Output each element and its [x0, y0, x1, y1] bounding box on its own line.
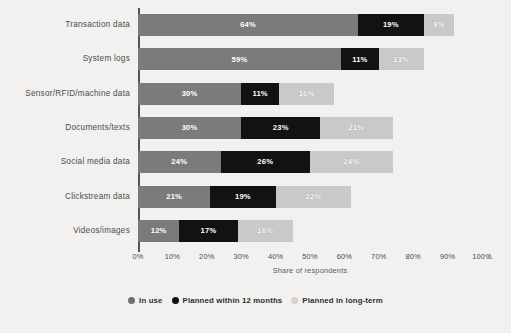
bar-value-label: 12% [151, 227, 167, 235]
bar-value-label: 24% [343, 158, 359, 166]
category-label: Sensor/RFID/machine data [25, 90, 130, 98]
x-axis-tick-label: 30% [233, 252, 248, 261]
bar-segment-planned-long-term[interactable]: 16% [238, 220, 293, 242]
circle-swatch-planned-12-months-icon [172, 297, 179, 304]
bar-segment-planned-12-months[interactable]: 17% [179, 220, 237, 242]
bar-value-label: 59% [232, 56, 248, 64]
bar-segment-in-use[interactable]: 24% [138, 151, 221, 173]
bar-row: Clickstream data21%19%22% [138, 186, 482, 208]
bar-value-label: 19% [235, 193, 251, 201]
x-axis-tick-label: 40% [268, 252, 283, 261]
bar-value-label: 16% [299, 90, 315, 98]
x-axis-tick-label: 20% [199, 252, 214, 261]
bar-row: Documents/texts30%23%21% [138, 117, 482, 139]
x-axis-tick-label: 10% [165, 252, 180, 261]
category-label: Social media data [61, 158, 130, 166]
chart-legend: In use Planned within 12 months Planned … [0, 296, 511, 305]
bar-value-label: 11% [352, 56, 367, 64]
category-label: Videos/images [73, 227, 130, 235]
circle-swatch-planned-long-term-icon [291, 297, 298, 304]
stacked-bar-chart-card: Transaction data64%19%9%System logs59%11… [0, 0, 511, 333]
legend-label-in-use: In use [139, 296, 162, 305]
x-axis-title: Share of respondents [138, 266, 482, 275]
circle-swatch-in-use-icon [128, 297, 135, 304]
bar-row: System logs59%11%13% [138, 48, 482, 70]
bar-segment-in-use[interactable]: 21% [138, 186, 210, 208]
bar-segment-in-use[interactable]: 59% [138, 48, 341, 70]
bar-row: Videos/images12%17%16% [138, 220, 482, 242]
bar-value-label: 30% [182, 90, 198, 98]
bar-segment-in-use[interactable]: 30% [138, 83, 241, 105]
bar-segment-planned-long-term[interactable]: 24% [310, 151, 393, 173]
legend-item-planned-long-term[interactable]: Planned in long-term [291, 296, 383, 305]
legend-label-planned-long-term: Planned in long-term [302, 296, 383, 305]
bar-row: Social media data24%26%24% [138, 151, 482, 173]
bar-row: Sensor/RFID/machine data30%11%16% [138, 83, 482, 105]
x-axis-tick-label: 80% [405, 252, 420, 261]
bar-segment-planned-12-months[interactable]: 19% [210, 186, 275, 208]
legend-item-planned-12-months[interactable]: Planned within 12 months [172, 296, 283, 305]
category-label: Transaction data [65, 21, 130, 29]
bar-value-label: 11% [252, 90, 267, 98]
x-axis-tick-label: 90% [440, 252, 455, 261]
bar-value-label: 30% [182, 124, 198, 132]
bar-rows-container: Transaction data64%19%9%System logs59%11… [138, 8, 482, 248]
x-axis-ticks: 0%10%20%30%40%50%60%70%80%90%100%1. [138, 252, 482, 266]
bar-value-label: 17% [201, 227, 217, 235]
bar-value-label: 9% [433, 21, 444, 29]
category-label: System logs [83, 55, 130, 63]
bar-value-label: 24% [171, 158, 187, 166]
bar-segment-in-use[interactable]: 64% [138, 14, 358, 36]
bar-value-label: 22% [306, 193, 322, 201]
bar-value-label: 21% [166, 193, 182, 201]
bar-value-label: 19% [383, 21, 399, 29]
bar-segment-in-use[interactable]: 12% [138, 220, 179, 242]
legend-item-in-use[interactable]: In use [128, 296, 162, 305]
bar-segment-in-use[interactable]: 30% [138, 117, 241, 139]
bar-value-label: 16% [257, 227, 273, 235]
bar-row: Transaction data64%19%9% [138, 14, 482, 36]
bar-segment-planned-12-months[interactable]: 11% [241, 83, 279, 105]
bar-segment-planned-long-term[interactable]: 21% [320, 117, 392, 139]
x-axis-tick-label: 70% [371, 252, 386, 261]
bar-value-label: 21% [349, 124, 365, 132]
bar-segment-planned-long-term[interactable]: 13% [379, 48, 424, 70]
bar-segment-planned-12-months[interactable]: 11% [341, 48, 379, 70]
category-label: Documents/texts [65, 124, 130, 132]
x-axis-tick-label: 50% [302, 252, 317, 261]
bar-segment-planned-12-months[interactable]: 26% [221, 151, 310, 173]
x-axis-tick-label: 0% [132, 252, 143, 261]
bar-segment-planned-12-months[interactable]: 19% [358, 14, 423, 36]
x-axis-overflow-label: 1. [487, 252, 493, 261]
bar-value-label: 13% [393, 56, 409, 64]
plot-area: Transaction data64%19%9%System logs59%11… [138, 8, 482, 248]
x-axis-tick-label: 60% [337, 252, 352, 261]
legend-label-planned-12-months: Planned within 12 months [183, 296, 283, 305]
bar-value-label: 64% [240, 21, 256, 29]
bar-segment-planned-long-term[interactable]: 16% [279, 83, 334, 105]
bar-segment-planned-long-term[interactable]: 9% [424, 14, 455, 36]
bar-segment-planned-long-term[interactable]: 22% [276, 186, 352, 208]
category-label: Clickstream data [65, 192, 130, 200]
bar-value-label: 23% [273, 124, 289, 132]
bar-value-label: 26% [257, 158, 273, 166]
bar-segment-planned-12-months[interactable]: 23% [241, 117, 320, 139]
